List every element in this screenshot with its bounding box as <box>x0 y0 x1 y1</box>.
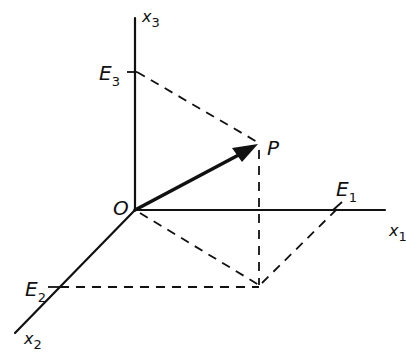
e1-tick <box>333 202 342 210</box>
e1-label: E1 <box>336 177 357 205</box>
x1-axis-label: x1 <box>388 221 406 244</box>
arrowhead-icon <box>232 144 258 162</box>
x2-axis <box>15 210 135 333</box>
e2-label: E2 <box>25 277 46 305</box>
dash-e3-to-p <box>137 72 259 143</box>
vector-op <box>135 150 248 210</box>
point-p-label: P <box>267 136 280 160</box>
dash-base-to-e1 <box>262 208 338 283</box>
e3-label: E3 <box>99 61 120 89</box>
dash-origin-to-base <box>140 213 259 285</box>
x2-axis-label: x2 <box>23 329 42 352</box>
coordinate-diagram: x3 E3 P O E1 x1 E2 x2 <box>0 0 406 352</box>
x3-axis-label: x3 <box>141 7 160 30</box>
origin-label: O <box>113 196 129 220</box>
